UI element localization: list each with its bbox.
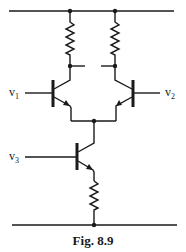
label-v3: v3 bbox=[9, 150, 19, 165]
junction-dot bbox=[113, 64, 117, 68]
junction-dot bbox=[92, 119, 96, 123]
label-v1: v1 bbox=[9, 86, 19, 101]
label-v2: v2 bbox=[165, 86, 175, 101]
circuit-diagram bbox=[0, 0, 186, 252]
resistor-r3 bbox=[90, 181, 98, 225]
junction-dot bbox=[113, 9, 117, 13]
junction-dot bbox=[68, 64, 72, 68]
junction-dot bbox=[68, 9, 72, 13]
resistor-r2 bbox=[111, 11, 119, 66]
transistor-q1 bbox=[25, 66, 71, 121]
transistor-q3 bbox=[25, 140, 94, 181]
junction-dot bbox=[92, 223, 96, 227]
transistor-q2 bbox=[115, 66, 160, 121]
figure-caption: Fig. 8.9 bbox=[0, 233, 186, 249]
resistor-r1 bbox=[66, 11, 74, 66]
